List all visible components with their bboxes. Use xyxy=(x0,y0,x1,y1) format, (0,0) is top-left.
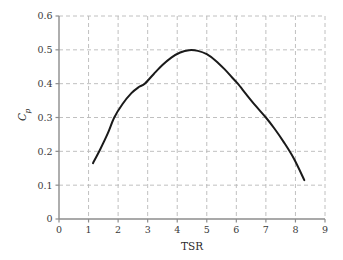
chart-figure: 0123456789 00.10.20.30.40.50.6 TSR C p xyxy=(0,0,343,260)
y-axis-title-subscript: p xyxy=(23,108,32,113)
y-axis-tick-label: 0.2 xyxy=(37,146,52,157)
chart-plot-area: 0123456789 00.10.20.30.40.50.6 TSR C p xyxy=(0,0,343,260)
y-axis-tick-label: 0.3 xyxy=(37,112,52,123)
y-axis-tick-label: 0.4 xyxy=(37,78,52,89)
y-axis-tick-label: 0.1 xyxy=(37,180,52,191)
x-axis-tick-label: 9 xyxy=(322,224,328,235)
x-axis-tick-label: 6 xyxy=(233,224,239,235)
x-axis-tick-label: 4 xyxy=(174,224,180,235)
x-axis-tick-label: 8 xyxy=(292,224,298,235)
x-axis-tick-label: 5 xyxy=(204,224,210,235)
y-axis-tick-label: 0 xyxy=(46,213,52,224)
x-axis-tick-label: 2 xyxy=(115,224,121,235)
x-axis-tick-label: 0 xyxy=(56,224,62,235)
x-axis-tick-label: 3 xyxy=(145,224,151,235)
x-axis-title: TSR xyxy=(181,240,204,252)
x-axis-tick-label: 7 xyxy=(263,224,269,235)
x-axis-tick-label: 1 xyxy=(86,224,92,235)
y-axis-tick-label: 0.5 xyxy=(37,44,52,55)
y-axis-tick-label: 0.6 xyxy=(37,10,52,21)
